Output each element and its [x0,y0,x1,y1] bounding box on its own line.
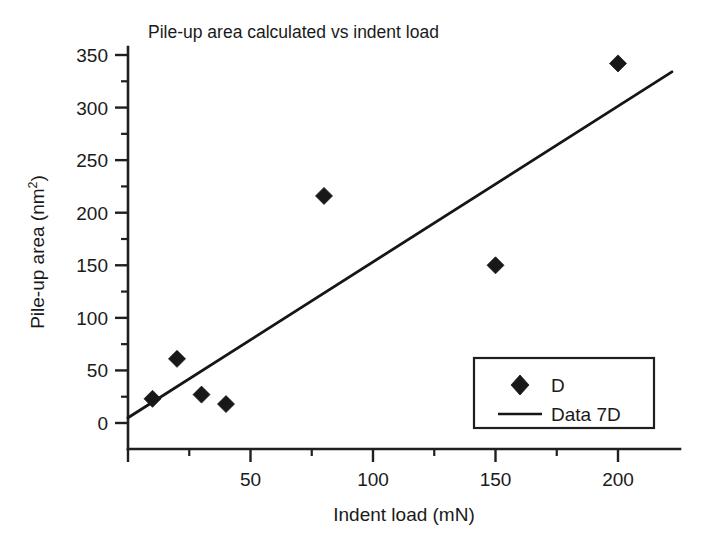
x-axis-tick-labels: 50100150200 [240,469,634,490]
data-point-marker [487,257,504,274]
y-axis-title-close: ) [27,175,48,181]
data-point-marker [610,55,627,72]
x-axis-title: Indent load (mN) [333,504,475,525]
y-axis-title-base: Pile-up area (nm [27,188,48,328]
legend-label-data7d: Data 7D [551,404,621,425]
svg-text:Pile-up area (nm2): Pile-up area (nm2) [26,175,48,329]
x-tick-label: 50 [240,469,261,490]
y-axis-tick-labels: 050100150200250300350 [76,45,108,434]
y-tick-label: 150 [76,255,108,276]
chart-legend: D Data 7D [474,358,654,428]
y-tick-label: 50 [87,360,108,381]
y-axis-ticks [115,55,128,423]
x-axis-ticks [128,449,618,462]
chart-container: Pile-up area calculated vs indent load 0… [0,0,711,548]
y-tick-label: 200 [76,203,108,224]
chart-title: Pile-up area calculated vs indent load [148,22,439,42]
legend-label-d: D [551,375,565,396]
data-point-marker [169,350,186,367]
scatter-plot: Pile-up area calculated vs indent load 0… [0,0,711,548]
y-axis-title-superscript: 2 [26,181,40,188]
y-tick-label: 100 [76,308,108,329]
y-tick-label: 0 [97,413,108,434]
x-tick-label: 150 [480,469,512,490]
y-tick-label: 250 [76,150,108,171]
data-point-marker [193,386,210,403]
y-tick-label: 300 [76,98,108,119]
y-tick-label: 350 [76,45,108,66]
data-point-marker [316,187,333,204]
data-point-marker [218,396,235,413]
x-tick-label: 200 [602,469,634,490]
y-axis-title: Pile-up area (nm2) [26,175,48,329]
x-tick-label: 100 [357,469,389,490]
